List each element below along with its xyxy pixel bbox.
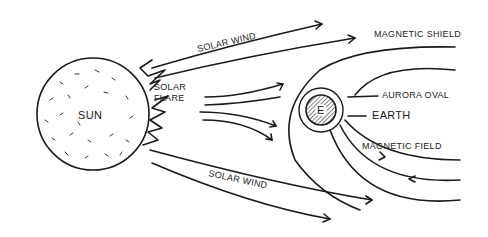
earth-letter: E [317,104,325,116]
diagram-canvas: SUN SOLAR FLARE SOLAR WIND E SOLAR WIND … [0,0,488,237]
magnetic-field-label: MAGNETIC FIELD [362,141,442,151]
solar-wind-diagram: SUN SOLAR FLARE SOLAR WIND E SOLAR WIND … [0,0,488,237]
solar-flare-label-2: FLARE [154,93,185,103]
solar-wind-bottom-label: SOLAR WIND [208,168,269,190]
magnetic-shield-label: MAGNETIC SHIELD [374,29,461,39]
magnetic-field-lines [289,47,460,210]
sun-icon: SUN [37,58,168,170]
flare-arrows [200,83,283,140]
earth-icon: E [299,88,343,132]
sun-label: SUN [78,109,102,121]
aurora-oval-label: AURORA OVAL [382,90,449,100]
solar-wind-top-label: SOLAR WIND [196,31,257,54]
solar-wind-top-arrows [152,21,355,78]
solar-flare-label-1: SOLAR [154,82,186,92]
earth-label: EARTH [372,109,411,121]
